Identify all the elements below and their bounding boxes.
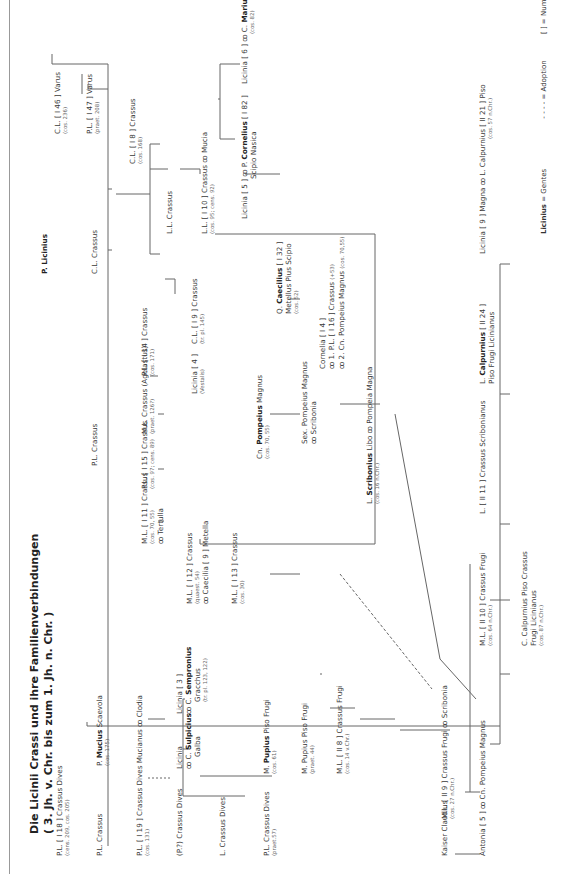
family-tree-diagram: Die Licinii Crassi und ihre Familienverb… — [0, 0, 575, 874]
person-cornelia: Cornelia [ I 4 ] ꝏ 1. P.L. [ I 16 ] Cras… — [318, 237, 347, 369]
person-ml-i13-crassus: M.L. [ I 13 ] Crassus(cos. 30) — [230, 533, 246, 604]
person-ml-i12-crassus: M.L. [ I 12 ] Crassus(quaest. 54) ꝏ Caec… — [185, 521, 210, 604]
person-licinia-6: Licinia [ 6 ] ꝏ C. Marius (cos. 82) — [240, 0, 256, 84]
person-sex-pompeius-magnus: Sex. Pompeius Magnus ꝏ Scribonia — [300, 361, 318, 444]
person-pl-crassus-dives-praet: P.L. Crassus Dives(praet.57) — [262, 792, 278, 856]
person-m-pupius-piso-frugi: M. Pupius Piso Frugi (cos. 61) — [262, 699, 278, 774]
person-l-ii11-crassus-scribonianus: L. [ II 11 ] Crassus Scribonianus — [478, 401, 487, 514]
person-cl-crassus: C.L. Crassus — [90, 230, 99, 274]
person-pl-crassus-2: P.L. Crassus — [95, 814, 104, 856]
person-licinia-5: Licinia [ 5 ] ꝏ P. Cornelius [ I 82 ] Sc… — [240, 95, 258, 219]
person-antonia-5: Antonia [ 5 ] ꝏ Cn. Pompeius Magnus — [478, 720, 487, 856]
person-cn-pompeius-magnus: Cn. Pompeius Magnus (cos. 70, 55) — [255, 375, 271, 459]
person-p-mucius-scaevola: P. Mucius Scaevola (cos. 175) — [95, 695, 111, 766]
person-ml-i11-crassus: M.L. [ I 11 ] Crassus(cos. 70, 55) ꝏ Ter… — [140, 473, 165, 544]
person-kaiser-claudius: Kaiser Claudius — [440, 801, 449, 856]
person-ml-ii8-crassus-frugi: M.L. [ II 8 ] Crassus Frugi(cos. 14 v.Ch… — [335, 685, 351, 774]
legend-adoption: - - - - = Adoption — [540, 60, 548, 118]
person-cl-i46-varus: C.L. [ I 46 ] Varus(cos. 236) — [53, 72, 69, 134]
person-l-crassus-dives: L. Crassus Dives — [218, 797, 227, 856]
person-l-scribonius-libo: L. Scribonius Libo ꝏ Pompeia Magna (cos.… — [365, 366, 381, 504]
person-cl-i9-crassus: C.L. [ I 9 ] Crassus(tr. pl. 145) — [190, 279, 206, 344]
legend: Licinius = Gentes - - - - = Adoption [ ]… — [540, 0, 548, 234]
person-pl-i18-crassus-dives: P.L. [ I 18 ] Crassus Dives(cens. 209, c… — [55, 766, 71, 857]
person-pl-i47-varus: P.L. [ I 47 ] Varus(praet. 208) — [85, 74, 101, 134]
legend-gentes: Licinius = Gentes — [540, 145, 548, 234]
person-licinia-3: Licinia [ 3 ] ꝏ C. Sempronius Gracchus (… — [175, 647, 209, 714]
person-p-crassus-dives: (P.?) Crassus Dives — [175, 788, 184, 856]
legend-numbering: [ ] = Nummerierung nach DNP — [540, 0, 548, 34]
person-ml-ii9-crassus-frugi: M.L. [ II 9 ] Crassus Frugi ꝏ Scribonia(… — [440, 685, 456, 819]
person-licinia-galba: Licinia ꝏ C. Sulpicius Galba — [175, 713, 202, 769]
person-pl-i19-crassus-dives-mucianus: P.L. [ I 19 ] Crassus Dives Mucianus ꝏ C… — [135, 695, 151, 856]
person-c-calpurnius-piso: C. Calpurnius Piso Crassus Frugi Licinia… — [520, 551, 545, 646]
person-cl-i8-crassus: C.L. [ I 8 ] Crassus(cos. 168) — [128, 99, 144, 164]
person-l-calpurnius-ii24: L. Calpurnius [ II 24 ] Piso Frugi Licin… — [478, 304, 496, 384]
person-m-pupius-praet: M. Pupius Piso Frugi(praet. 44) — [300, 703, 316, 774]
person-ll-crassus: L.L. Crassus — [165, 191, 174, 234]
person-p-licinius: P. Licinius — [40, 234, 49, 274]
person-ll-i10-crassus: L.L. [ I 10 ] Crassus ꝏ Mucia(cos. 95; c… — [200, 132, 216, 234]
person-licinia-4: Licinia [ 4 ](Vestalis) — [190, 354, 206, 394]
person-pl-crassus: P.L. Crassus — [90, 424, 99, 466]
person-q-caecilius: Q. Caecilius [ I 32 ] Metellus Pius Scip… — [275, 242, 300, 314]
person-ml-ii10-crassus-frugi: M.L. [ II 10 ] Crassus Frugi(cos. 64 n.C… — [478, 553, 494, 646]
person-licinia-9-magna: Licinia [ 9 ] Magna ꝏ L. Calpurnius [ II… — [478, 84, 494, 254]
